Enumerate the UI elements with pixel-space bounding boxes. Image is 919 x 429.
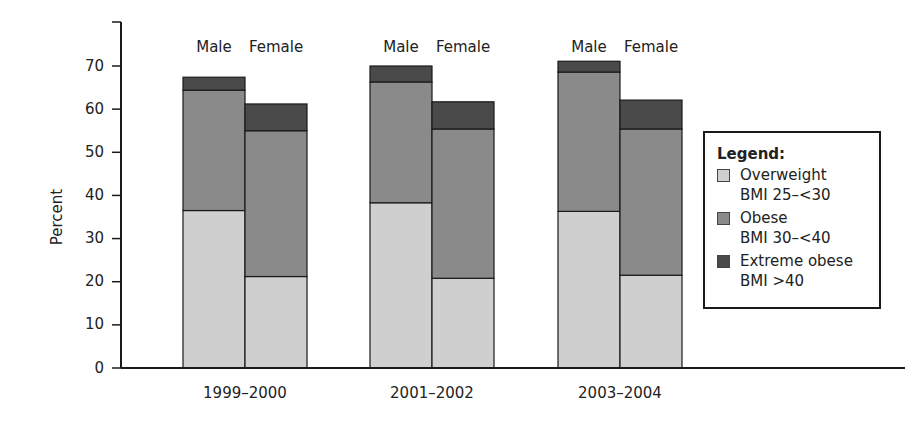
bar-segment <box>370 203 432 368</box>
bar-segment <box>370 66 432 82</box>
bar-segment <box>245 131 307 277</box>
bar-segment <box>620 100 682 129</box>
legend-label: Overweight <box>740 165 827 185</box>
legend-item-obese: Obese <box>717 208 869 228</box>
legend: Legend: Overweight BMI 25–<30 Obese BMI … <box>703 131 881 309</box>
y-tick-label: 70 <box>85 57 104 75</box>
y-tick-label: 0 <box>94 359 104 377</box>
group-label: Female <box>249 38 303 56</box>
x-category-label: 2001–2002 <box>390 384 474 402</box>
bar-segment <box>245 277 307 368</box>
legend-title: Legend: <box>717 145 869 163</box>
y-tick-label: 60 <box>85 100 104 118</box>
bar-segment <box>183 77 245 90</box>
legend-item-overweight: Overweight <box>717 165 869 185</box>
bar-segment <box>558 211 620 368</box>
bars: MaleFemaleMaleFemaleMaleFemale <box>183 38 682 368</box>
y-tick-label: 50 <box>85 143 104 161</box>
bar-segment <box>183 211 245 368</box>
bar-segment <box>245 104 307 131</box>
legend-sublabel: BMI >40 <box>717 271 869 291</box>
y-tick-label: 20 <box>85 272 104 290</box>
group-label: Female <box>436 38 490 56</box>
y-axis-label: Percent <box>48 189 66 246</box>
group-label: Male <box>571 38 607 56</box>
bar-segment <box>558 72 620 211</box>
x-axis: 1999–20002001–20022003–2004 <box>121 368 905 402</box>
legend-sublabel: BMI 30–<40 <box>717 228 869 248</box>
bar-segment <box>432 129 494 278</box>
group-label: Male <box>383 38 419 56</box>
legend-label: Extreme obese <box>740 251 853 271</box>
bar-segment <box>620 129 682 275</box>
obese-swatch-icon <box>717 212 730 225</box>
y-tick-label: 10 <box>85 315 104 333</box>
bar-segment <box>558 61 620 72</box>
bar-segment <box>432 102 494 129</box>
legend-label: Obese <box>740 208 788 228</box>
bar-segment <box>370 82 432 203</box>
y-tick-label: 30 <box>85 229 104 247</box>
bar-segment <box>432 278 494 368</box>
x-category-label: 2003–2004 <box>578 384 662 402</box>
legend-item-extreme-obese: Extreme obese <box>717 251 869 271</box>
legend-sublabel: BMI 25–<30 <box>717 185 869 205</box>
y-axis: 010203040506070 <box>85 22 121 377</box>
extreme-obese-swatch-icon <box>717 255 730 268</box>
bar-segment <box>620 275 682 368</box>
overweight-swatch-icon <box>717 169 730 182</box>
bar-segment <box>183 90 245 210</box>
group-label: Male <box>196 38 232 56</box>
group-label: Female <box>624 38 678 56</box>
x-category-label: 1999–2000 <box>203 384 287 402</box>
y-tick-label: 40 <box>85 186 104 204</box>
